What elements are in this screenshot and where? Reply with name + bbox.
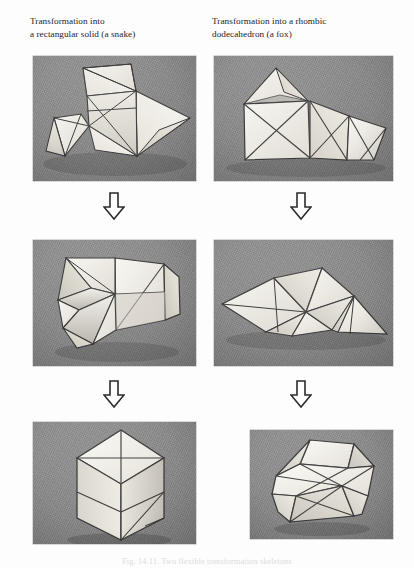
rhombic-dodecahedron-model [250, 430, 393, 539]
down-block-arrow-icon [103, 379, 125, 409]
photo-left-stage-1 [33, 56, 196, 181]
down-block-arrow-icon [290, 379, 312, 409]
fox-partially-folded-model [214, 240, 393, 366]
figure-page: Transformation into a rectangular solid … [0, 0, 414, 568]
photo-left-stage-2 [33, 240, 196, 366]
rectangular-solid-model [33, 422, 196, 544]
photo-right-stage-1 [214, 56, 393, 181]
column-heading-left: Transformation into a rectangular solid … [30, 15, 200, 41]
down-block-arrow-icon [103, 191, 125, 221]
photo-left-stage-3 [33, 422, 196, 544]
photo-right-stage-3 [250, 430, 393, 539]
snake-unfolded-model [33, 56, 196, 181]
arrow-right-row2-to-row3 [290, 379, 312, 409]
column-heading-right: Transformation into a rhombic dodecahedr… [212, 15, 392, 41]
down-block-arrow-icon [290, 191, 312, 221]
fox-unfolded-model [214, 56, 393, 181]
figure-caption: Fig. 14.11. Two flexible transformation … [0, 556, 414, 567]
photo-right-stage-2 [214, 240, 393, 366]
arrow-left-row2-to-row3 [103, 379, 125, 409]
snake-partially-folded-model [33, 240, 196, 366]
arrow-left-row1-to-row2 [103, 191, 125, 221]
arrow-right-row1-to-row2 [290, 191, 312, 221]
